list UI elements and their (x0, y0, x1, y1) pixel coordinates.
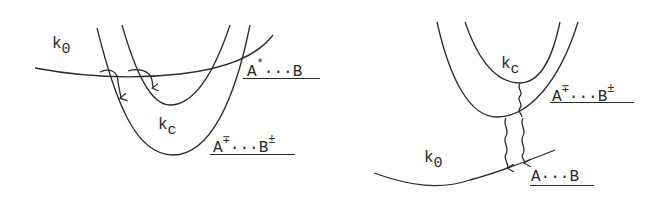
rate-symbol: k (424, 149, 434, 167)
species-a: A (531, 168, 541, 186)
charge-marker: ∓ (223, 133, 230, 147)
separator-dots: ··· (541, 168, 570, 186)
species-b: B (569, 168, 579, 186)
rate-symbol: k (158, 116, 168, 134)
k0-rate-label: k0 (424, 150, 443, 166)
species-b: B (598, 88, 608, 106)
wavy-decay-inner-to-outer (519, 84, 522, 117)
charge-marker: ∓ (562, 82, 569, 96)
wavy-decay-arrow-left (505, 118, 508, 168)
separator-dots: ··· (569, 88, 598, 106)
ground-state-curve-k0 (374, 150, 555, 186)
charge-marker: ± (607, 82, 614, 96)
rate-symbol: k (501, 55, 511, 73)
excitation-marker: * (257, 57, 264, 71)
ground-state-underline (530, 185, 594, 186)
species-a: A (552, 88, 562, 106)
kc-rate-label: kc (158, 117, 177, 133)
excited-state-underline (243, 78, 320, 79)
rate-subscript: c (511, 61, 520, 78)
ion-pair-state-underline (550, 102, 634, 103)
right-panel (374, 22, 578, 186)
kc-rate-label: kc (501, 56, 520, 72)
crossing-arrow-right (128, 70, 153, 88)
rate-subscript: c (168, 122, 177, 139)
wavy-decay-arrow-right (522, 118, 525, 163)
ground-state-label: A···B (531, 169, 579, 185)
ion-pair-state-underline (210, 154, 295, 155)
k0-rate-label: k0 (52, 36, 71, 52)
rate-subscript: 0 (62, 41, 71, 58)
rate-symbol: k (52, 35, 62, 53)
inner-parabola-excited (122, 25, 230, 105)
charge-marker: ± (268, 133, 275, 147)
rate-subscript: 0 (434, 155, 443, 172)
